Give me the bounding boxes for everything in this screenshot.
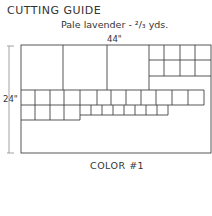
cutting-diagram	[0, 0, 212, 216]
